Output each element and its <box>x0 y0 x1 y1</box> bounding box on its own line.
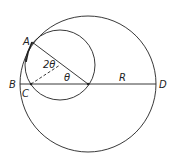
label-c: C <box>22 88 29 99</box>
point-center <box>87 83 89 85</box>
label-a: A <box>22 36 30 47</box>
label-theta: θ <box>64 72 70 83</box>
label-two-theta: 2θ <box>43 59 55 70</box>
label-b: B <box>9 79 16 90</box>
point-c <box>30 83 32 85</box>
geometry-diagram: A B C D R θ 2θ <box>0 0 172 161</box>
label-r: R <box>119 72 126 83</box>
label-d: D <box>159 79 167 90</box>
